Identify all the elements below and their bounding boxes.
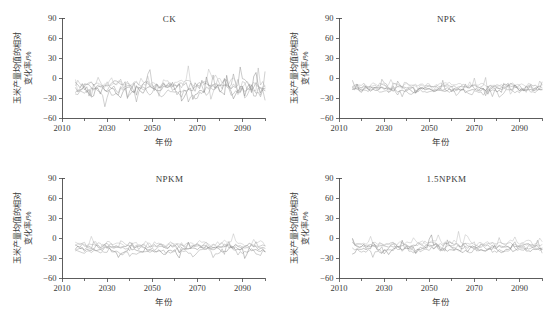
x-tick-label: 2090 (234, 123, 251, 133)
y-tick-label: 60 (48, 33, 57, 43)
plot-area-ck: −60−30030609020102030205020702090CK年份玉米产… (0, 0, 277, 160)
x-tick-label: 2010 (54, 283, 71, 293)
y-tick-label: 30 (325, 53, 334, 63)
y-tick-label: 30 (48, 213, 57, 223)
x-tick-label: 2090 (234, 283, 251, 293)
series-group (76, 66, 265, 107)
panel-title: 1.5NPKM (426, 174, 466, 184)
figure-root: −60−30030609020102030205020702090CK年份玉米产… (0, 0, 554, 320)
y-tick-label: 30 (48, 53, 57, 63)
y-tick-label: 90 (325, 173, 334, 183)
x-tick-label: 2090 (511, 123, 528, 133)
y-axis-title: 玉米产量均值的相对变化率/% (12, 192, 33, 264)
x-tick-label: 2030 (99, 123, 116, 133)
x-tick-label: 2070 (466, 283, 483, 293)
axes-group: −60−30030609020102030205020702090 (43, 13, 265, 133)
x-tick-label: 2050 (421, 123, 438, 133)
y-axis-title-line-2: 变化率/% (300, 211, 310, 244)
x-tick-label: 2070 (466, 123, 483, 133)
y-tick-label: 60 (48, 193, 57, 203)
y-tick-label: −30 (320, 253, 333, 263)
series-group (353, 77, 542, 97)
y-tick-label: 60 (325, 193, 334, 203)
y-tick-label: −30 (43, 93, 56, 103)
axes-group: −60−30030609020102030205020702090 (320, 173, 542, 293)
panel-npk: −60−30030609020102030205020702090NPK年份玉米… (277, 0, 554, 160)
y-axis-title-line-1: 玉米产量均值的相对 (289, 192, 299, 264)
y-tick-label: 0 (52, 73, 56, 83)
y-tick-label: −30 (43, 253, 56, 263)
y-tick-label: −60 (43, 273, 56, 283)
axes-group: −60−30030609020102030205020702090 (43, 173, 265, 293)
y-axis-title-line-2: 变化率/% (23, 51, 33, 84)
y-axis-title-line-1: 玉米产量均值的相对 (12, 32, 22, 104)
x-tick-label: 2010 (331, 283, 348, 293)
y-axis-title-line-1: 玉米产量均值的相对 (12, 192, 22, 264)
x-tick-label: 2030 (99, 283, 116, 293)
x-tick-label: 2010 (54, 123, 71, 133)
y-axis-title: 玉米产量均值的相对变化率/% (289, 32, 310, 104)
y-tick-label: 0 (329, 73, 333, 83)
axes-group: −60−30030609020102030205020702090 (320, 13, 542, 133)
x-axis-title: 年份 (155, 137, 173, 147)
plot-area-npk: −60−30030609020102030205020702090NPK年份玉米… (277, 0, 554, 160)
y-tick-label: 30 (325, 213, 334, 223)
y-tick-label: −60 (320, 273, 333, 283)
x-axis-title: 年份 (155, 297, 173, 307)
y-tick-label: 60 (325, 33, 334, 43)
x-axis-title: 年份 (432, 297, 450, 307)
x-tick-label: 2050 (421, 283, 438, 293)
y-tick-label: 0 (52, 233, 56, 243)
panel-title: NPK (437, 14, 456, 24)
panel-npkm: −60−30030609020102030205020702090NPKM年份玉… (0, 160, 277, 320)
y-axis-title: 玉米产量均值的相对变化率/% (12, 32, 33, 104)
y-tick-label: 0 (329, 233, 333, 243)
plot-area-npkm: −60−30030609020102030205020702090NPKM年份玉… (0, 160, 277, 320)
y-axis-title: 玉米产量均值的相对变化率/% (289, 192, 310, 264)
panel-ck: −60−30030609020102030205020702090CK年份玉米产… (0, 0, 277, 160)
y-axis-title-line-1: 玉米产量均值的相对 (289, 32, 299, 104)
panel-1-5npkm: −60−300306090201020302050207020901.5NPKM… (277, 160, 554, 320)
panel-title: NPKM (156, 174, 184, 184)
series-group (76, 234, 265, 259)
y-tick-label: 90 (325, 13, 334, 23)
y-tick-label: −60 (320, 113, 333, 123)
plot-area-1-5npkm: −60−300306090201020302050207020901.5NPKM… (277, 160, 554, 320)
y-tick-label: 90 (48, 173, 57, 183)
y-tick-label: 90 (48, 13, 57, 23)
series-group (353, 231, 542, 257)
x-tick-label: 2070 (189, 283, 206, 293)
y-tick-label: −30 (320, 93, 333, 103)
x-tick-label: 2050 (144, 283, 161, 293)
x-axis-title: 年份 (432, 137, 450, 147)
y-tick-label: −60 (43, 113, 56, 123)
y-axis-title-line-2: 变化率/% (23, 211, 33, 244)
x-tick-label: 2010 (331, 123, 348, 133)
y-axis-title-line-2: 变化率/% (300, 51, 310, 84)
x-tick-label: 2070 (189, 123, 206, 133)
x-tick-label: 2030 (376, 123, 393, 133)
panel-title: CK (163, 14, 176, 24)
x-tick-label: 2050 (144, 123, 161, 133)
x-tick-label: 2090 (511, 283, 528, 293)
x-tick-label: 2030 (376, 283, 393, 293)
